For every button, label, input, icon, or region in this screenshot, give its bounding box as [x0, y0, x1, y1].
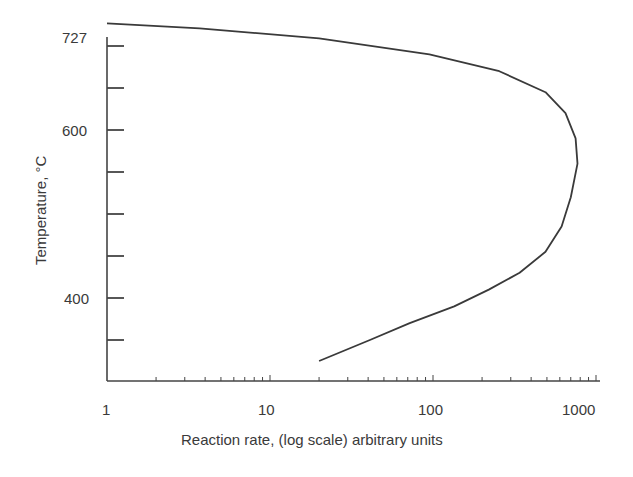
x-tick-label-1: 1: [102, 401, 110, 418]
x-tick-label-100: 100: [418, 401, 443, 418]
y-axis: [107, 37, 124, 381]
x-axis-ticks: [156, 375, 596, 381]
x-tick-label-10: 10: [258, 401, 275, 418]
data-curve: [107, 23, 578, 361]
y-tick-label-600: 600: [62, 122, 87, 139]
x-tick-label-1000: 1000: [562, 401, 595, 418]
y-tick-label-727: 727: [62, 29, 87, 46]
x-axis: [107, 375, 600, 381]
y-tick-label-400: 400: [64, 290, 89, 307]
y-axis-title: Temperature, °C: [32, 155, 49, 265]
x-axis-title: Reaction rate, (log scale) arbitrary uni…: [181, 431, 443, 448]
chart-canvas: 727 600 400 1 10 100 1000 Reaction rate,…: [0, 0, 633, 477]
y-axis-ticks: [107, 46, 124, 340]
